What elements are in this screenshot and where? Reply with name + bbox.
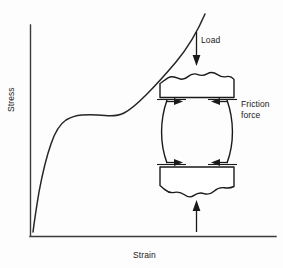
- figure-canvas: [0, 0, 283, 268]
- x-axis-label: Strain: [133, 250, 156, 260]
- reaction-arrow-icon: [193, 200, 201, 232]
- friction-force-line-1: Friction: [241, 99, 270, 110]
- axis-lines: [30, 25, 276, 237]
- specimen-left-side: [162, 100, 167, 163]
- stress-strain-figure: Stress Strain Load Frictionforce: [0, 0, 283, 268]
- stress-strain-curve: [33, 14, 205, 232]
- upper-platen: [160, 73, 234, 98]
- lower-platen: [160, 167, 234, 197]
- friction-force-line-2: force: [241, 110, 270, 121]
- friction-force-label: Frictionforce: [241, 99, 270, 120]
- compression-test-inset: [157, 32, 237, 232]
- specimen-right-side: [227, 100, 232, 163]
- load-label: Load: [201, 35, 220, 45]
- y-axis-label: Stress: [6, 52, 16, 112]
